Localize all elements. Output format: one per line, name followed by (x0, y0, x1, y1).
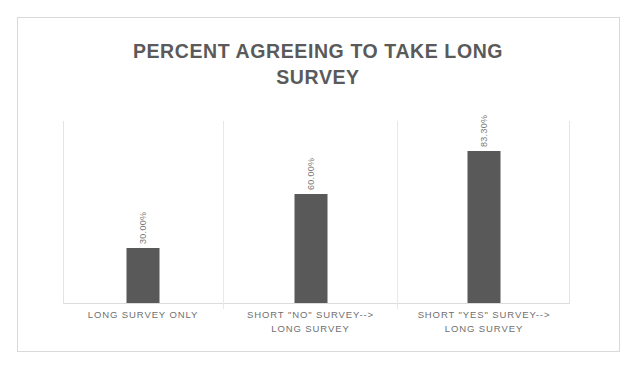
bar-data-label: 30.00% (138, 212, 148, 244)
plot-area: 30.00% 60.00% 83.30% (63, 121, 570, 304)
x-axis-line (63, 303, 570, 304)
bar-slot: 30.00% (63, 121, 223, 303)
chart-title-line-1: PERCENT AGREEING TO TAKE LONG (78, 38, 558, 64)
x-axis-tick-label: SHORT "YES" SURVEY--> LONG SURVEY (398, 308, 570, 336)
bar-slot: 83.30% (398, 121, 570, 303)
bar-data-label: 83.30% (479, 115, 489, 147)
chart-title: PERCENT AGREEING TO TAKE LONG SURVEY (78, 38, 558, 90)
x-axis-category-labels: LONG SURVEY ONLY SHORT "NO" SURVEY--> LO… (63, 308, 570, 350)
bar[interactable] (468, 151, 501, 303)
bar-data-label: 60.00% (306, 158, 316, 190)
bar[interactable] (127, 248, 160, 303)
x-axis-tick-label-line-1: SHORT "NO" SURVEY--> (224, 308, 397, 322)
chart-frame: PERCENT AGREEING TO TAKE LONG SURVEY 30.… (17, 17, 620, 352)
x-axis-tick-label-line-2: LONG SURVEY (224, 322, 397, 336)
x-axis-tick-label-line-1: SHORT "YES" SURVEY--> (398, 308, 570, 322)
x-axis-tick-label: LONG SURVEY ONLY (63, 308, 223, 322)
bar-slot: 60.00% (224, 121, 397, 303)
chart-title-line-2: SURVEY (78, 64, 558, 90)
x-axis-tick-label-line-1: LONG SURVEY ONLY (63, 308, 223, 322)
x-axis-tick-label: SHORT "NO" SURVEY--> LONG SURVEY (224, 308, 397, 336)
x-axis-tick-label-line-2: LONG SURVEY (398, 322, 570, 336)
bar[interactable] (294, 194, 327, 303)
